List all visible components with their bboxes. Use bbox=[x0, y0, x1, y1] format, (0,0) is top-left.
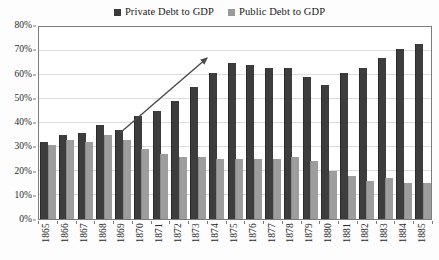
bar-group[interactable] bbox=[358, 27, 377, 219]
x-tick-label: 1868 bbox=[99, 223, 109, 243]
x-tick-mark bbox=[263, 221, 264, 224]
bar-public-debt[interactable] bbox=[291, 157, 299, 219]
y-tick-label: 40% bbox=[15, 118, 32, 128]
legend-label-public-debt: Public Debt to GDP bbox=[239, 7, 325, 18]
legend-square-icon bbox=[228, 9, 235, 16]
x-tick-mark bbox=[413, 221, 414, 224]
y-tick-mark bbox=[33, 50, 36, 51]
legend-item-private-debt[interactable]: Private Debt to GDP bbox=[114, 7, 214, 18]
x-tick-label: 1870 bbox=[136, 223, 146, 243]
debt-to-gdp-bar-chart: Private Debt to GDP Public Debt to GDP 0… bbox=[0, 0, 439, 260]
x-tick-label: 1874 bbox=[211, 223, 221, 243]
x-tick-label: 1882 bbox=[361, 223, 371, 243]
x-tick-label: 1872 bbox=[174, 223, 184, 243]
x-tick-label: 1871 bbox=[155, 223, 165, 243]
x-tick-label: 1875 bbox=[230, 223, 240, 243]
x-tick-mark bbox=[244, 221, 245, 224]
x-tick-mark bbox=[394, 221, 395, 224]
bar-group[interactable] bbox=[395, 27, 414, 219]
x-tick-label: 1880 bbox=[324, 223, 334, 243]
y-tick-label: 10% bbox=[15, 191, 32, 201]
bar-group[interactable] bbox=[95, 27, 114, 219]
y-tick-label: 50% bbox=[15, 94, 32, 104]
bar-public-debt[interactable] bbox=[85, 142, 93, 219]
bar-public-debt[interactable] bbox=[48, 145, 56, 219]
bar-public-debt[interactable] bbox=[123, 140, 131, 219]
bar-group[interactable] bbox=[77, 27, 96, 219]
plot-area bbox=[38, 26, 432, 220]
x-tick-label: 1878 bbox=[286, 223, 296, 243]
legend-square-icon bbox=[114, 9, 121, 16]
bar-public-debt[interactable] bbox=[104, 135, 112, 219]
x-tick-mark bbox=[226, 221, 227, 224]
bar-public-debt[interactable] bbox=[160, 154, 168, 219]
bar-public-debt[interactable] bbox=[310, 161, 318, 219]
x-tick-mark bbox=[113, 221, 114, 224]
x-tick-mark bbox=[319, 221, 320, 224]
x-tick-label: 1884 bbox=[399, 223, 409, 243]
bar-public-debt[interactable] bbox=[179, 157, 187, 219]
y-tick-label: 80% bbox=[15, 21, 32, 31]
bar-public-debt[interactable] bbox=[66, 140, 74, 219]
y-axis: 0%10%20%30%40%50%60%70%80% bbox=[0, 26, 36, 220]
legend-item-public-debt[interactable]: Public Debt to GDP bbox=[228, 7, 325, 18]
bar-group[interactable] bbox=[39, 27, 58, 219]
bar-public-debt[interactable] bbox=[254, 159, 262, 219]
x-tick-mark bbox=[357, 221, 358, 224]
x-tick-mark bbox=[338, 221, 339, 224]
bar-public-debt[interactable] bbox=[198, 157, 206, 219]
y-tick-mark bbox=[33, 74, 36, 75]
x-tick-mark bbox=[94, 221, 95, 224]
bar-group[interactable] bbox=[302, 27, 321, 219]
bar-group[interactable] bbox=[114, 27, 133, 219]
bar-group[interactable] bbox=[133, 27, 152, 219]
bar-group[interactable] bbox=[377, 27, 396, 219]
x-tick-label: 1879 bbox=[305, 223, 315, 243]
x-tick-mark bbox=[376, 221, 377, 224]
bar-group[interactable] bbox=[264, 27, 283, 219]
y-tick-mark bbox=[33, 195, 36, 196]
bar-group[interactable] bbox=[152, 27, 171, 219]
bar-public-debt[interactable] bbox=[141, 149, 149, 219]
x-tick-mark bbox=[132, 221, 133, 224]
x-tick-label: 1865 bbox=[42, 223, 52, 243]
x-tick-label: 1877 bbox=[268, 223, 278, 243]
bar-group[interactable] bbox=[170, 27, 189, 219]
y-tick-label: 30% bbox=[15, 143, 32, 153]
y-tick-mark bbox=[33, 171, 36, 172]
bar-group[interactable] bbox=[58, 27, 77, 219]
x-tick-mark bbox=[76, 221, 77, 224]
bar-group[interactable] bbox=[339, 27, 358, 219]
x-tick-label: 1883 bbox=[380, 223, 390, 243]
bars-layer bbox=[39, 27, 431, 219]
legend-label-private-debt: Private Debt to GDP bbox=[125, 7, 214, 18]
bar-public-debt[interactable] bbox=[216, 159, 224, 219]
x-tick-label: 1866 bbox=[61, 223, 71, 243]
bar-group[interactable] bbox=[283, 27, 302, 219]
bar-public-debt[interactable] bbox=[235, 159, 243, 219]
x-tick-mark bbox=[432, 221, 433, 224]
x-tick-label: 1885 bbox=[418, 223, 428, 243]
bar-group[interactable] bbox=[227, 27, 246, 219]
bar-public-debt[interactable] bbox=[348, 176, 356, 219]
bar-public-debt[interactable] bbox=[329, 171, 337, 219]
bar-public-debt[interactable] bbox=[366, 181, 374, 219]
bar-public-debt[interactable] bbox=[273, 159, 281, 219]
bar-group[interactable] bbox=[414, 27, 432, 219]
x-tick-mark bbox=[38, 221, 39, 224]
bar-public-debt[interactable] bbox=[404, 183, 412, 219]
bar-public-debt[interactable] bbox=[423, 183, 431, 219]
bar-group[interactable] bbox=[189, 27, 208, 219]
bar-public-debt[interactable] bbox=[385, 178, 393, 219]
x-tick-mark bbox=[188, 221, 189, 224]
bar-group[interactable] bbox=[320, 27, 339, 219]
y-tick-label: 0% bbox=[19, 215, 32, 225]
bar-group[interactable] bbox=[245, 27, 264, 219]
y-tick-label: 20% bbox=[15, 167, 32, 177]
y-tick-mark bbox=[33, 220, 36, 221]
x-tick-label: 1869 bbox=[117, 223, 127, 243]
y-tick-label: 60% bbox=[15, 70, 32, 80]
bar-group[interactable] bbox=[208, 27, 227, 219]
y-tick-mark bbox=[33, 98, 36, 99]
x-tick-mark bbox=[282, 221, 283, 224]
